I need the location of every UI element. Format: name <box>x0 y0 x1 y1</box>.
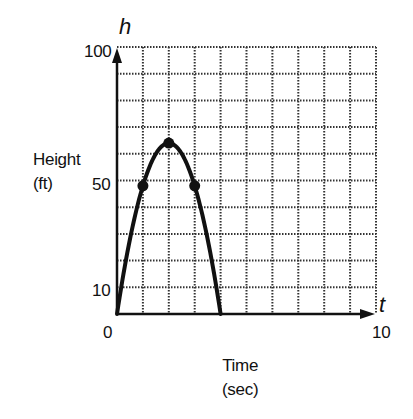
y-tick-100: 100 <box>84 43 111 60</box>
y-axis-variable-label: h <box>119 16 131 38</box>
x-axis-arrow-icon <box>360 309 375 319</box>
y-axis-arrow-icon <box>112 48 122 63</box>
data-point-marker <box>163 138 174 149</box>
x-axis-title-line2: (sec) <box>222 378 258 402</box>
data-point-marker <box>189 180 200 191</box>
x-axis-variable-label: t <box>379 294 385 316</box>
x-tick-0: 0 <box>103 324 112 341</box>
y-axis-title-line1: Height <box>33 148 80 172</box>
x-axis-title-line1: Time <box>222 354 258 378</box>
y-axis-title: Height (ft) <box>33 148 80 196</box>
data-point-marker <box>137 180 148 191</box>
x-tick-10: 10 <box>372 324 390 341</box>
y-tick-10: 10 <box>92 282 110 299</box>
plot-area <box>0 0 413 419</box>
x-axis-title: Time (sec) <box>222 354 258 402</box>
y-axis-title-line2: (ft) <box>33 172 80 196</box>
y-tick-50: 50 <box>92 176 110 193</box>
